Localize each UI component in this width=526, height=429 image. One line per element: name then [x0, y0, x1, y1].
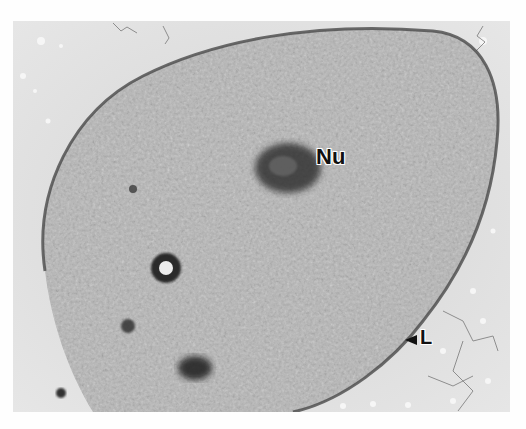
- dense-body: [121, 319, 135, 333]
- nucleolus-label: Nu: [316, 144, 345, 170]
- lamina-label: L: [420, 326, 432, 349]
- arrowhead-icon: [405, 335, 417, 345]
- micrograph-image: Nu L: [13, 21, 510, 412]
- cell-illustration: [13, 21, 510, 412]
- dense-body: [178, 356, 212, 380]
- dense-body: [129, 185, 137, 193]
- debris-dot: [56, 388, 66, 398]
